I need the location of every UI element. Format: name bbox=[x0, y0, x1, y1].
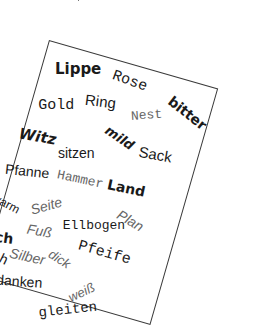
word-sitzen: sitzen bbox=[58, 146, 95, 160]
word-card: Lippe Rose bitter Ring Nest Gold mild Sa… bbox=[0, 40, 218, 325]
word-land: Land bbox=[106, 177, 146, 199]
word-rose: Rose bbox=[110, 68, 149, 94]
word-seite: Seite bbox=[29, 195, 64, 217]
word-pfanne: Pfanne bbox=[4, 162, 50, 181]
word-warm: warm bbox=[0, 191, 22, 215]
word-hammer: Hammer bbox=[56, 168, 104, 190]
word-sack: Sack bbox=[138, 144, 173, 165]
word-pfeife: Pfeife bbox=[76, 238, 132, 267]
word-ring: Ring bbox=[84, 92, 116, 111]
word-lippe: Lippe bbox=[55, 62, 101, 77]
word-bitter: bitter bbox=[166, 94, 210, 132]
word-gleiten: gleiten bbox=[38, 300, 98, 320]
word-milch: Milch bbox=[0, 226, 14, 246]
word-dick: dick bbox=[46, 247, 73, 270]
word-fuss: Fuß bbox=[26, 222, 53, 240]
word-nest: Nest bbox=[131, 108, 163, 123]
word-silber: Silber bbox=[8, 246, 46, 267]
word-danken: danken bbox=[0, 273, 43, 290]
word-gold: Gold bbox=[38, 98, 74, 113]
word-mild: mild bbox=[103, 123, 137, 152]
word-ellbogen: Ellbogen bbox=[63, 219, 125, 232]
word-witz: Witz bbox=[18, 126, 58, 147]
